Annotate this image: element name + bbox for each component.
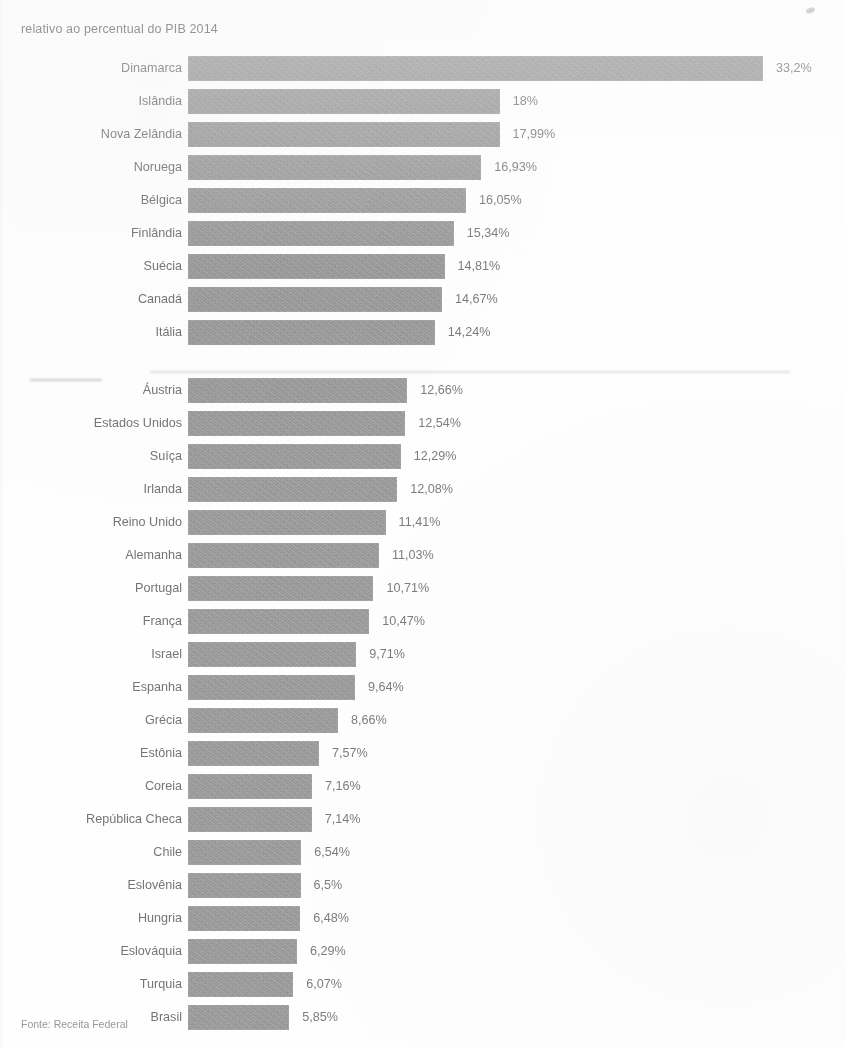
bar-track: 8,66%	[188, 708, 845, 733]
bar-fill	[188, 972, 293, 997]
bar-track: 18%	[188, 89, 845, 114]
bar-track: 10,47%	[188, 609, 845, 634]
bar-track: 16,05%	[188, 188, 845, 213]
bar-value-label: 12,54%	[418, 411, 461, 436]
bar-value-label: 11,03%	[392, 543, 434, 568]
bar-row: Suécia14,81%	[0, 254, 845, 287]
bar-track: 12,54%	[188, 411, 845, 436]
bar-value-label: 12,29%	[414, 444, 457, 469]
bar-value-label: 9,64%	[368, 675, 404, 700]
bar-row: Eslováquia6,29%	[0, 939, 845, 972]
bar-value-label: 10,47%	[382, 609, 425, 634]
bar-row: Dinamarca33,2%	[0, 56, 845, 89]
bar-category-label: Coreia	[145, 774, 182, 799]
bar-track: 14,81%	[188, 254, 845, 279]
bar-row: Suíça12,29%	[0, 444, 845, 477]
bar-row: França10,47%	[0, 609, 845, 642]
bar-row: Chile6,54%	[0, 840, 845, 873]
bar-row: Israel9,71%	[0, 642, 845, 675]
bar-track: 12,29%	[188, 444, 845, 469]
bar-track: 15,34%	[188, 221, 845, 246]
bar-category-label: Bélgica	[141, 188, 182, 213]
bar-category-label: Irlanda	[143, 477, 182, 502]
bar-category-label: Grécia	[145, 708, 182, 733]
bar-row: Grécia8,66%	[0, 708, 845, 741]
bar-category-label: Espanha	[132, 675, 182, 700]
bar-value-label: 5,85%	[302, 1005, 338, 1030]
bar-fill	[188, 221, 454, 246]
bar-fill	[188, 378, 407, 403]
bar-track: 6,07%	[188, 972, 845, 997]
bar-category-label: Chile	[153, 840, 182, 865]
bar-row: Finlândia15,34%	[0, 221, 845, 254]
bar-value-label: 10,71%	[386, 576, 429, 601]
bar-chart-plot-area: Dinamarca33,2%Islândia18%Nova Zelândia17…	[0, 56, 845, 1038]
bar-track: 7,16%	[188, 774, 845, 799]
bar-track: 9,64%	[188, 675, 845, 700]
bar-value-label: 33,2%	[776, 56, 812, 81]
bar-track: 12,66%	[188, 378, 845, 403]
bar-fill	[188, 287, 442, 312]
bar-track: 7,14%	[188, 807, 845, 832]
bar-category-label: Hungria	[138, 906, 182, 931]
bar-fill	[188, 906, 300, 931]
bar-value-label: 18%	[513, 89, 538, 114]
scan-speck-artifact	[805, 7, 815, 15]
bar-category-label: Portugal	[135, 576, 182, 601]
bar-category-label: Canadá	[138, 287, 182, 312]
bar-fill	[188, 642, 356, 667]
bar-fill	[188, 122, 500, 147]
bar-track: 7,57%	[188, 741, 845, 766]
bar-value-label: 8,66%	[351, 708, 387, 733]
bar-value-label: 7,16%	[325, 774, 361, 799]
bar-value-label: 9,71%	[369, 642, 405, 667]
bar-fill	[188, 774, 312, 799]
bar-fill	[188, 188, 466, 213]
bar-category-label: Alemanha	[125, 543, 182, 568]
bar-track: 6,48%	[188, 906, 845, 931]
bar-category-label: Itália	[155, 320, 182, 345]
bar-category-label: Suécia	[143, 254, 182, 279]
bar-value-label: 16,05%	[479, 188, 522, 213]
bar-fill	[188, 411, 405, 436]
bar-value-label: 7,14%	[325, 807, 361, 832]
bar-track: 12,08%	[188, 477, 845, 502]
bar-value-label: 16,93%	[494, 155, 537, 180]
bar-category-label: Áustria	[143, 378, 182, 403]
bar-row: Estônia7,57%	[0, 741, 845, 774]
chart-title: relativo ao percentual do PIB 2014	[21, 22, 218, 36]
bar-track: 6,5%	[188, 873, 845, 898]
bar-row: Eslovênia6,5%	[0, 873, 845, 906]
bar-row: Irlanda12,08%	[0, 477, 845, 510]
bar-category-label: França	[143, 609, 182, 634]
bar-value-label: 6,54%	[314, 840, 350, 865]
bar-track: 11,41%	[188, 510, 845, 535]
bar-row: Noruega16,93%	[0, 155, 845, 188]
bar-track: 16,93%	[188, 155, 845, 180]
bar-category-label: República Checa	[86, 807, 182, 832]
bar-fill	[188, 873, 301, 898]
bar-fill	[188, 89, 500, 114]
bar-row: Estados Unidos12,54%	[0, 411, 845, 444]
bar-row: Coreia7,16%	[0, 774, 845, 807]
bar-value-label: 6,48%	[313, 906, 349, 931]
bar-category-label: Eslovênia	[127, 873, 182, 898]
bar-fill	[188, 510, 386, 535]
bar-category-label: Nova Zelândia	[101, 122, 182, 147]
bar-row: Nova Zelândia17,99%	[0, 122, 845, 155]
bar-fill	[188, 320, 435, 345]
bar-value-label: 14,81%	[458, 254, 501, 279]
bar-fill	[188, 609, 369, 634]
bar-track: 5,85%	[188, 1005, 845, 1030]
bar-track: 14,67%	[188, 287, 845, 312]
bar-category-label: Islândia	[139, 89, 182, 114]
bar-value-label: 12,66%	[420, 378, 463, 403]
bar-track: 9,71%	[188, 642, 845, 667]
bar-track: 17,99%	[188, 122, 845, 147]
bar-category-label: Estônia	[140, 741, 182, 766]
bar-category-label: Reino Unido	[113, 510, 182, 535]
bar-value-label: 12,08%	[410, 477, 453, 502]
bar-value-label: 6,07%	[306, 972, 342, 997]
bar-fill	[188, 477, 397, 502]
bar-value-label: 14,24%	[448, 320, 491, 345]
